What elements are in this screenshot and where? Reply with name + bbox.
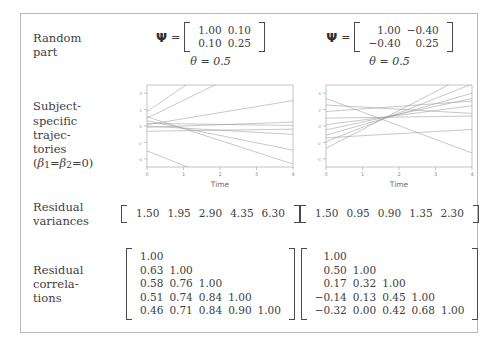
- x-tick-label: 4: [291, 171, 294, 177]
- row-label-line: correla-: [33, 277, 83, 291]
- matrix-cell: [438, 264, 467, 277]
- matrix-cell: 1.00: [350, 264, 379, 277]
- x-tick-label: 2: [397, 171, 400, 177]
- theta-value-left: θ = 0.5: [190, 55, 230, 68]
- matrix-cell: 0.42: [379, 304, 408, 317]
- matrix-cell: [438, 291, 467, 304]
- matrix-cell: −0.32: [312, 304, 350, 317]
- matrix-row: 1.00: [312, 250, 468, 263]
- matrix-cell: 0.25: [404, 37, 442, 50]
- residual-variances-right: 1.500.950.901.352.30: [300, 194, 479, 234]
- matrix-row: 0.501.00: [312, 264, 468, 277]
- y-tick-label: 4: [139, 91, 142, 96]
- y-tick-label: 2: [318, 108, 321, 113]
- vector-bracket: 1.501.952.904.356.30: [121, 205, 300, 222]
- equals-sign: =: [171, 31, 180, 44]
- row-label-random-part: Random part: [21, 14, 121, 76]
- psi-cell-right: Ψ = 1.00 −0.40 −0.40: [300, 14, 479, 76]
- matrix-cell: 1.00: [365, 24, 403, 37]
- matrix-cell: 0.50: [312, 264, 350, 277]
- comparison-grid: Random part Ψ = 1.00 0.10: [21, 14, 477, 332]
- trajectory-line: [326, 106, 472, 125]
- y-tick-label: 0: [139, 124, 142, 129]
- matrix-cell: [438, 250, 467, 263]
- matrix-cell: −0.14: [312, 291, 350, 304]
- matrix-row: −0.140.130.451.00: [312, 291, 468, 304]
- y-tick-label: 4: [318, 91, 321, 96]
- matrix-cell: 1.00: [195, 24, 224, 37]
- bracket-right: [447, 22, 453, 53]
- row-label-residual-variances: Residual variances: [21, 194, 121, 234]
- matrix-row: 0.580.761.00: [137, 277, 284, 290]
- x-tick-label: 0: [324, 171, 327, 177]
- vector-cell: 0.90: [374, 207, 405, 220]
- trajectory-line: [326, 79, 472, 148]
- y-tick-label: 2: [139, 108, 142, 113]
- matrix-cell: 0.90: [225, 304, 254, 317]
- matrix-cell: 1.00: [166, 264, 195, 277]
- equals-sign: =: [341, 31, 350, 44]
- trajectory-lines: [326, 79, 472, 153]
- row-label-line: part: [33, 45, 81, 59]
- matrix-row: 1.00: [137, 250, 284, 263]
- vector-cell: 1.50: [132, 207, 163, 220]
- matrix-row: 0.631.00: [137, 264, 284, 277]
- vector-cell: 2.30: [437, 207, 468, 220]
- matrix-cell: −0.40: [404, 24, 442, 37]
- x-tick-label: 1: [360, 171, 363, 177]
- x-tick-label: 1: [181, 171, 184, 177]
- plot-panel-border: [147, 85, 293, 167]
- trajectory-line: [147, 79, 293, 112]
- trajectory-plot-left: -4-202401234Time: [125, 79, 297, 191]
- row-label-line: variances: [33, 214, 89, 228]
- vector-cell: 2.90: [195, 207, 226, 220]
- x-tick-label: 3: [254, 171, 257, 177]
- matrix-cell: 1.00: [196, 277, 225, 290]
- matrix-bracket: 1.000.501.000.170.321.00−0.140.130.451.0…: [301, 248, 479, 319]
- matrix-cell: [166, 250, 195, 263]
- x-tick-label: 4: [470, 171, 473, 177]
- matrix-cell: 0.25: [225, 37, 254, 50]
- matrix-cell: 1.00: [137, 250, 166, 263]
- row-label-line: trajec-: [33, 128, 93, 142]
- vector-cell: 1.35: [405, 207, 436, 220]
- matrix-cell: 0.17: [312, 277, 350, 290]
- residual-correlations-right: 1.000.501.000.170.321.00−0.140.130.451.0…: [300, 234, 479, 334]
- matrix-cell: [255, 277, 284, 290]
- plot-cell-right: -4-202401234Time: [300, 76, 479, 194]
- y-tick-label: -2: [316, 141, 321, 146]
- matrix-cell: 0.10: [225, 24, 254, 37]
- matrix-cell: [438, 277, 467, 290]
- matrix-cell: [225, 277, 254, 290]
- matrix-cell: 0.10: [195, 37, 224, 50]
- trajectory-line: [326, 116, 472, 118]
- row-label-residual-correlations: Residual correla- tions: [21, 234, 121, 334]
- matrix-cell: 1.00: [379, 277, 408, 290]
- matrix-cell: 1.00: [225, 291, 254, 304]
- vector-cell: 1.95: [163, 207, 194, 220]
- matrix-row: −0.320.000.420.681.00: [312, 304, 468, 317]
- matrix-cell: 0.46: [137, 304, 166, 317]
- matrix-cell: −0.40: [365, 37, 403, 50]
- row-label-line: Subject-: [33, 99, 93, 113]
- matrix-cell: 0.58: [137, 277, 166, 290]
- row-label-trajectories: Subject- specific trajec- tories (β1=β2=…: [21, 76, 121, 194]
- trajectory-plot-right: -4-202401234Time: [304, 79, 476, 191]
- bracket-right: [473, 205, 479, 222]
- y-tick-label: -2: [137, 141, 142, 146]
- matrix-cell: [196, 264, 225, 277]
- y-tick-label: -4: [316, 157, 321, 162]
- y-tick-label: 0: [318, 124, 321, 129]
- matrix-cell: [409, 264, 438, 277]
- beta-note-text: (β1=β2=0): [33, 156, 93, 170]
- bracket-right: [289, 248, 295, 319]
- matrix-cell: 0.63: [137, 264, 166, 277]
- matrix-cell: [225, 250, 254, 263]
- x-tick-label: 0: [145, 171, 148, 177]
- matrix-cell: 0.84: [196, 304, 225, 317]
- residual-variances-left: 1.501.952.904.356.30: [121, 194, 300, 234]
- vector-bracket: 1.500.950.901.352.30: [300, 205, 479, 222]
- matrix-cell: 1.00: [312, 250, 350, 263]
- trajectory-line: [326, 84, 472, 142]
- matrix-cell: [350, 250, 379, 263]
